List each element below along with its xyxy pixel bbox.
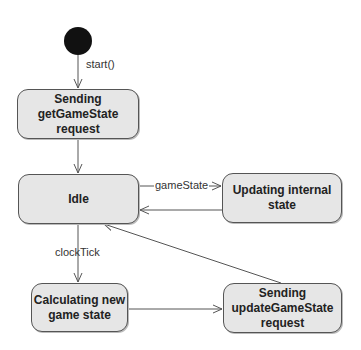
transition-label-start: start() (86, 58, 115, 70)
state-label: Updating internal state (233, 183, 332, 213)
state-calculating-new-game-state: Calculating new game state (31, 283, 128, 332)
transition-label-gamestate: gameState (154, 179, 209, 191)
state-updating-internal-state: Updating internal state (222, 173, 342, 223)
transition-label-clocktick: clockTick (55, 246, 100, 258)
state-label: Calculating new game state (34, 293, 125, 323)
state-sending-update-game-state: Sending updateGameState request (223, 283, 342, 333)
state-sending-get-game-state: Sending getGameState request (17, 89, 139, 139)
initial-state-node (64, 27, 92, 55)
transition-sending-update-to-idle (104, 224, 281, 283)
state-label: Sending getGameState request (38, 92, 119, 137)
state-idle: Idle (18, 174, 139, 224)
state-label: Idle (68, 192, 89, 207)
state-label: Sending updateGameState request (231, 286, 333, 331)
